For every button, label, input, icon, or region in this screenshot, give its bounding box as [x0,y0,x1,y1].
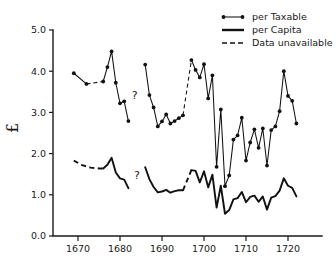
data-point-marker [118,101,122,105]
data-point-marker [181,113,185,117]
series-line-taxable [183,60,191,115]
legend-swatch-marker-left [222,15,226,19]
data-point-marker [206,96,210,100]
data-series [72,50,298,214]
series-line-taxable [191,60,296,186]
data-point-marker [236,134,240,138]
data-point-marker [106,65,110,69]
series-line-capita [183,170,191,190]
series-line-capita [145,167,183,193]
data-point-marker [190,58,194,62]
data-point-marker [177,116,181,120]
data-point-marker [114,81,118,85]
y-axis-label-text: £ [3,123,22,133]
data-point-marker [85,82,89,86]
data-point-marker [160,120,164,124]
x-tick-label: 1670 [66,243,90,254]
data-point-marker [72,71,76,75]
x-tick-label: 1710 [234,243,258,254]
x-tick-label: 1700 [192,243,216,254]
legend-swatch-marker-right [241,15,245,19]
data-point-marker [215,165,219,169]
annotation-question-mark: ? [134,169,140,182]
data-point-marker [173,119,177,123]
data-point-marker [148,93,152,97]
data-point-marker [169,122,173,126]
data-point-marker [282,69,286,73]
data-point-marker [286,94,290,98]
data-point-marker [269,128,273,132]
x-tick-label: 1680 [108,243,132,254]
data-point-marker [143,63,147,67]
data-point-marker [110,50,114,54]
data-point-marker [126,119,130,123]
y-tick-label: 0.0 [31,230,46,241]
data-point-marker [227,174,231,178]
y-tick-label: 3.0 [31,107,46,118]
y-tick-label: 1.0 [31,189,46,200]
data-point-marker [194,68,198,72]
data-point-marker [261,127,265,131]
y-tick-label: 5.0 [31,24,46,35]
data-point-marker [274,125,278,129]
data-point-marker [232,138,236,142]
x-tick-label: 1690 [150,243,174,254]
data-point-marker [248,141,252,145]
y-tick-label: 2.0 [31,148,46,159]
data-point-marker [219,108,223,112]
x-tick-label: 1720 [276,243,300,254]
data-point-marker [240,116,244,120]
data-point-marker [295,122,299,126]
data-point-marker [156,125,160,129]
data-point-marker [244,159,248,163]
data-point-marker [223,184,227,188]
data-point-marker [290,99,294,103]
data-point-marker [278,109,282,113]
data-point-marker [152,106,156,110]
chart-canvas: 0.01.02.03.04.05.01670168016901700171017… [0,0,336,265]
annotation-question-mark: ? [132,89,138,102]
y-axis-label: £ [3,123,22,133]
series-line-capita [103,158,128,188]
data-point-marker [265,164,269,168]
data-point-marker [101,80,105,84]
data-point-marker [202,62,206,66]
series-line-taxable [74,73,87,84]
annotations: ?? [132,89,140,182]
data-point-marker [253,127,257,131]
legend-label-3: Data unavailable [252,37,333,48]
series-line-taxable [86,82,103,84]
axis-lines [53,30,322,236]
legend-label-1: per Taxable [252,11,307,22]
series-line-capita [191,170,296,214]
series-line-capita [74,161,103,169]
legend: per Taxableper CapitaData unavailable [222,11,333,48]
y-tick-label: 4.0 [31,66,46,77]
axes: 0.01.02.03.04.05.01670168016901700171017… [31,24,322,254]
series-line-taxable [103,51,128,121]
legend-label-2: per Capita [252,24,301,35]
data-point-marker [257,146,261,150]
data-point-marker [211,73,215,77]
chart-figure: 0.01.02.03.04.05.01670168016901700171017… [0,0,336,265]
data-point-marker [164,113,168,117]
data-point-marker [122,99,126,103]
data-point-marker [198,75,202,79]
